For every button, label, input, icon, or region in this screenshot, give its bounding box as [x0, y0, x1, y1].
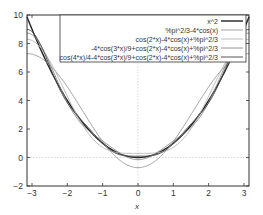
x-tick-label: −3 [27, 188, 37, 198]
legend: x^2%pi^2/3-4*cos(x)cos(2*x)-4*cos(x)+%pi… [59, 15, 246, 62]
y-tick-label: 10 [14, 10, 24, 20]
legend-label: cos(4*x)/4-4*cos(3*x)/9+cos(2*x)-4*cos(x… [59, 54, 218, 62]
legend-label: cos(2*x)-4*cos(x)+%pi^2/3 [136, 36, 219, 44]
legend-label: x^2 [207, 18, 218, 25]
y-tick-label: 8 [18, 39, 23, 49]
legend-label: -4*cos(3*x)/9+cos(2*x)-4*cos(x)+%pi^2/3 [91, 45, 218, 53]
x-tick-label: 0 [136, 188, 141, 198]
y-tick-label: 4 [18, 96, 23, 106]
fourier-series-chart: −20246810 −3−2−10123 x x^2%pi^2/3-4*cos(… [0, 0, 263, 215]
y-tick-label: 2 [18, 124, 23, 134]
x-tick-label: −1 [98, 188, 108, 198]
x-axis-label: x [134, 202, 140, 211]
y-tick-label: 0 [18, 153, 23, 163]
y-tick-label: 6 [18, 67, 23, 77]
legend-label: %pi^2/3-4*cos(x) [165, 27, 218, 35]
x-tick-label: 1 [171, 188, 176, 198]
x-tick-label: 3 [242, 188, 247, 198]
x-tick-label: −2 [62, 188, 72, 198]
x-tick-label: 2 [206, 188, 211, 198]
y-tick-label: −2 [13, 181, 23, 191]
